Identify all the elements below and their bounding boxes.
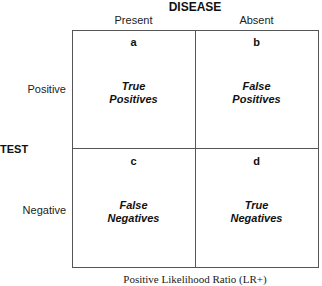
cell-letter-c: c — [72, 155, 195, 167]
cell-label-true-positives: True Positives — [72, 80, 195, 106]
cell-letter-d: d — [195, 155, 318, 167]
cell-letter-b: b — [195, 36, 318, 48]
disease-axis-title: DISEASE — [72, 0, 318, 14]
cell-label-false-negatives: False Negatives — [72, 199, 195, 225]
cell-label-line2: Negatives — [195, 212, 318, 225]
cell-label-true-negatives: True Negatives — [195, 199, 318, 225]
cell-label-line2: Negatives — [72, 212, 195, 225]
cell-label-line1: False — [72, 199, 195, 212]
cell-label-line2: Positives — [72, 93, 195, 106]
cell-label-line1: True — [72, 80, 195, 93]
cell-label-false-positives: False Positives — [195, 80, 318, 106]
cell-true-positives: a True Positives — [72, 30, 195, 148]
footer-caption: Positive Likelihood Ratio (LR+) — [72, 272, 318, 286]
cell-label-line2: Positives — [195, 93, 318, 106]
cell-false-negatives: c False Negatives — [72, 149, 195, 267]
cell-label-line1: False — [195, 80, 318, 93]
test-axis-title: TEST — [0, 142, 28, 156]
column-label-present: Present — [72, 13, 195, 27]
cell-label-line1: True — [195, 199, 318, 212]
column-label-absent: Absent — [195, 13, 318, 27]
cell-false-positives: b False Positives — [195, 30, 318, 148]
row-label-positive: Positive — [27, 82, 66, 96]
row-label-negative: Negative — [23, 203, 66, 217]
cell-letter-a: a — [72, 36, 195, 48]
cell-true-negatives: d True Negatives — [195, 149, 318, 267]
